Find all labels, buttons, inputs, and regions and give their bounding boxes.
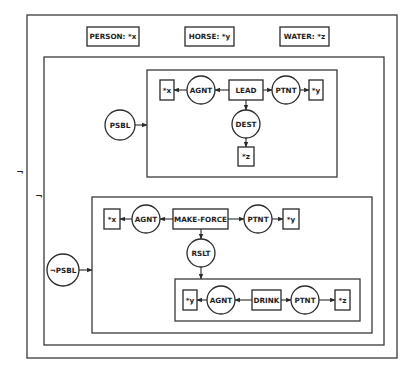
concept-z-lead: *z [238,147,254,166]
concept-z-drink: *z [335,290,350,310]
declaration-water: WATER: *z [280,27,329,46]
psbl-label: PSBL [110,121,131,130]
declaration-person: PERSON: *x [87,27,139,46]
declaration-water-label: WATER: *z [284,32,325,41]
concept-lead: LEAD [229,80,263,100]
not-possible-relation: ¬PSBL [47,254,79,286]
agnt-label: AGNT [190,86,212,95]
ptnt-label: PTNT [247,215,268,224]
concept-x-label: *x [108,215,117,224]
concept-y-makeforce: *y [283,209,299,229]
dest-label: DEST [236,120,257,129]
concept-y-drink: *y [183,290,197,310]
relation-agnt-drink: AGNT [207,286,235,314]
lead-label: LEAD [235,86,256,95]
concept-make-force: MAKE-FORCE [173,209,228,229]
relation-agnt-lead: AGNT [187,76,215,104]
not-psbl-label: ¬PSBL [50,266,77,275]
concept-y-label: *y [312,86,321,95]
declaration-horse-label: HORSE: *y [189,32,231,41]
concept-y-label: *y [287,215,296,224]
relation-ptnt-lead: PTNT [272,76,300,104]
concept-z-label: *z [339,296,347,305]
rslt-label: RSLT [191,249,210,258]
outer-negation-symbol: ¬ [16,167,24,177]
conceptual-graph-diagram: ¬ ¬ PERSON: *x HORSE: *y WATER: *z PSBL … [0,0,414,376]
concept-x-label: *x [163,86,172,95]
possible-relation: PSBL [105,110,135,140]
concept-y-lead: *y [309,80,323,100]
relation-rslt: RSLT [187,239,215,267]
relation-ptnt-makeforce: PTNT [244,205,272,233]
relation-agnt-makeforce: AGNT [132,205,160,233]
concept-z-label: *z [242,152,250,161]
declaration-horse: HORSE: *y [185,27,234,46]
agnt-label: AGNT [210,296,232,305]
concept-x-makeforce: *x [104,209,120,229]
relation-ptnt-drink: PTNT [291,286,319,314]
drink-label: DRINK [254,296,280,305]
concept-y-label: *y [186,296,195,305]
declaration-person-label: PERSON: *x [90,32,137,41]
make-force-label: MAKE-FORCE [174,215,227,224]
ptnt-label: PTNT [275,86,296,95]
inner-negation-symbol: ¬ [35,191,43,201]
relation-dest: DEST [232,110,260,138]
ptnt-label: PTNT [294,296,315,305]
concept-drink: DRINK [252,290,281,310]
concept-x-lead: *x [160,80,174,100]
agnt-label: AGNT [135,215,157,224]
